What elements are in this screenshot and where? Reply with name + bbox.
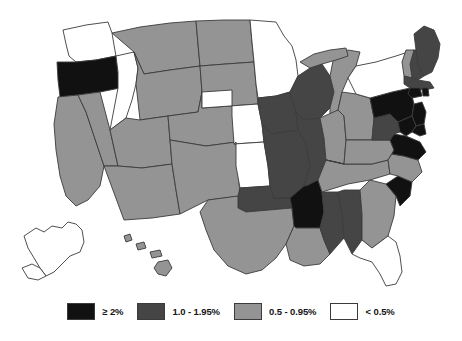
state-MN[interactable] (250, 20, 298, 98)
state-HI-kauai[interactable] (124, 234, 132, 242)
legend-label-0: ≥ 2% (102, 306, 123, 317)
state-KS[interactable] (234, 142, 270, 188)
state-HI-bigisland[interactable] (154, 260, 172, 276)
state-OR[interactable] (57, 56, 120, 97)
state-ND[interactable] (196, 20, 254, 66)
state-CT[interactable] (408, 88, 422, 98)
state-RI[interactable] (422, 88, 429, 96)
legend-swatch-0 (67, 303, 95, 320)
state-WA[interactable] (63, 22, 116, 62)
state-HI-oahu[interactable] (136, 242, 146, 250)
choropleth-figure: ≥ 2% 1.0 - 1.95% 0.5 - 0.95% < 0.5% (0, 0, 462, 341)
legend-label-3: < 0.5% (365, 306, 394, 317)
legend-label-1: 1.0 - 1.95% (172, 306, 220, 317)
state-HI-maui[interactable] (150, 250, 162, 258)
legend-swatch-3 (330, 303, 358, 320)
us-map-svg (0, 0, 462, 292)
legend-label-2: 0.5 - 0.95% (269, 306, 317, 317)
legend-entry-2[interactable]: 0.5 - 0.95% (234, 303, 317, 320)
legend-entry-0[interactable]: ≥ 2% (67, 303, 123, 320)
state-AZ[interactable] (104, 164, 180, 220)
legend-entry-3[interactable]: < 0.5% (330, 303, 394, 320)
us-map (0, 0, 462, 292)
state-UT[interactable] (110, 116, 172, 168)
legend: ≥ 2% 1.0 - 1.95% 0.5 - 0.95% < 0.5% (0, 296, 462, 326)
legend-swatch-1 (137, 303, 165, 320)
legend-entry-1[interactable]: 1.0 - 1.95% (137, 303, 220, 320)
legend-swatch-2 (234, 303, 262, 320)
